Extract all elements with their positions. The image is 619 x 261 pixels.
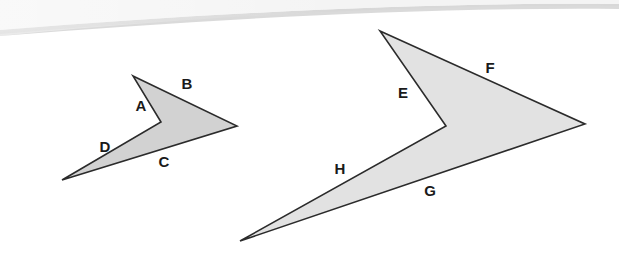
edge-label-e: E bbox=[398, 84, 408, 101]
edge-label-c: C bbox=[159, 153, 170, 170]
figure-canvas: A B C D E F G H bbox=[0, 0, 619, 261]
edge-label-g: G bbox=[424, 182, 436, 199]
edge-label-a: A bbox=[136, 97, 147, 114]
edge-label-b: B bbox=[182, 75, 193, 92]
geometry-figure: A B C D E F G H bbox=[0, 0, 619, 261]
edge-label-d: D bbox=[100, 138, 111, 155]
edge-label-f: F bbox=[485, 59, 494, 76]
edge-label-h: H bbox=[335, 160, 346, 177]
